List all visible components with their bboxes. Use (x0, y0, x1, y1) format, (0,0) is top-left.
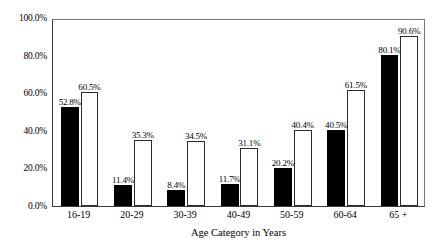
bar-value-label: 11.7% (219, 175, 241, 184)
bar-value-label: 35.3% (132, 131, 154, 140)
x-tick-label: 60-64 (333, 209, 356, 221)
bar-value-label: 52.8% (59, 98, 81, 107)
bar-series-b-20-29: 35.3% (134, 140, 152, 206)
bar-series-b-30-39: 34.5% (187, 141, 205, 206)
y-tick-label: 80.0% (23, 52, 47, 62)
x-tick-label: 20-29 (120, 209, 143, 221)
bar-series-b-40-49: 31.1% (240, 148, 258, 206)
y-axis: 0.0%20.0%40.0%60.0%80.0%100.0% (0, 0, 50, 252)
y-tick-label: 0.0% (28, 202, 47, 212)
bar-value-label: 34.5% (185, 132, 207, 141)
bar-value-label: 8.4% (167, 181, 185, 190)
bar-chart: 0.0%20.0%40.0%60.0%80.0%100.0% 52.8%60.5… (0, 0, 436, 252)
bar-value-label: 90.6% (398, 27, 420, 36)
y-tick-label: 60.0% (23, 89, 47, 99)
bar-value-label: 60.5% (78, 83, 100, 92)
bar-group: 52.8%60.5% (53, 20, 106, 206)
y-tick-label: 100.0% (19, 14, 47, 24)
bar-value-label: 80.1% (378, 46, 400, 55)
bar-value-label: 61.5% (345, 81, 367, 90)
bar-series-a-65-: 80.1% (381, 55, 399, 206)
bar-series-a-50-59: 20.2% (274, 168, 292, 206)
x-axis-title: Age Category in Years (52, 227, 425, 240)
bar-series-a-16-19: 52.8% (61, 107, 79, 206)
bar-value-label: 40.4% (292, 121, 314, 130)
x-tick-label: 65 + (389, 209, 407, 221)
bar-group: 80.1%90.6% (373, 20, 426, 206)
bar-series-a-60-64: 40.5% (327, 130, 345, 206)
plot-area: 52.8%60.5%11.4%35.3%8.4%34.5%11.7%31.1%2… (52, 19, 425, 207)
bar-value-label: 40.5% (325, 121, 347, 130)
y-tick-label: 20.0% (23, 165, 47, 175)
bar-series-b-50-59: 40.4% (294, 130, 312, 206)
bar-series-a-30-39: 8.4% (167, 190, 185, 206)
y-tick-label: 40.0% (23, 127, 47, 137)
bar-series-b-16-19: 60.5% (81, 92, 99, 206)
bar-series-b-60-64: 61.5% (347, 90, 365, 206)
x-tick-label: 40-49 (227, 209, 250, 221)
bar-group: 11.7%31.1% (213, 20, 266, 206)
x-tick-label: 16-19 (67, 209, 90, 221)
bars-layer: 52.8%60.5%11.4%35.3%8.4%34.5%11.7%31.1%2… (53, 20, 424, 206)
bar-group: 11.4%35.3% (106, 20, 159, 206)
bar-series-a-20-29: 11.4% (114, 185, 132, 206)
bar-value-label: 20.2% (272, 159, 294, 168)
bar-series-b-65-: 90.6% (400, 36, 418, 206)
bar-group: 8.4%34.5% (160, 20, 213, 206)
bar-series-a-40-49: 11.7% (221, 184, 239, 206)
x-axis: 16-1920-2930-3940-4950-5960-6465 + (52, 209, 425, 225)
bar-group: 20.2%40.4% (266, 20, 319, 206)
bar-value-label: 11.4% (112, 176, 134, 185)
bar-value-label: 31.1% (238, 139, 260, 148)
x-tick-label: 30-39 (174, 209, 197, 221)
bar-group: 40.5%61.5% (319, 20, 372, 206)
x-tick-label: 50-59 (280, 209, 303, 221)
